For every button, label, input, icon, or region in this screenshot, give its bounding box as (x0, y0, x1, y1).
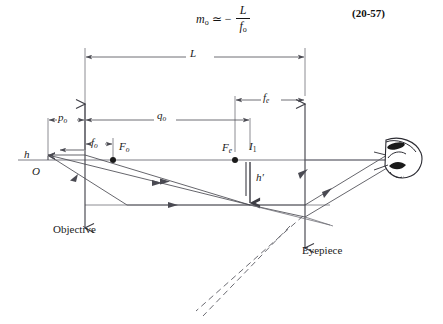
label-intermediate-image: I1 (249, 141, 256, 153)
focal-point-eyepiece-dot (232, 157, 238, 163)
label-object-height: h (24, 149, 30, 160)
label-object-origin: O (32, 166, 40, 177)
label-total-length-L: L (190, 48, 196, 59)
dashed-ray-upper (196, 216, 303, 311)
label-eyepiece-lens: Eyepiece (302, 245, 342, 256)
dimension-fe (235, 96, 304, 152)
ray-lower-path (48, 155, 250, 208)
dimension-L (85, 48, 305, 150)
eyepiece-corner-connector (250, 205, 330, 225)
label-eyepiece-focal-length: fe (263, 92, 269, 104)
ray-diagram-svg (0, 0, 443, 324)
ray-eyepiece-to-eye-lower (250, 165, 392, 217)
label-objective-focal-point: Fo (119, 141, 129, 153)
label-object-distance: po (58, 112, 67, 124)
eyepiece-corner-connector-2 (305, 217, 333, 226)
label-objective-lens: Objective (53, 224, 96, 235)
label-objective-focal-length: fo (91, 137, 98, 149)
figure-container: mo ≃ − L fo (20-57) (0, 0, 443, 324)
virtual-image-dashed-rays (196, 216, 303, 316)
label-eyepiece-focal-point: Fe (222, 142, 232, 154)
focal-point-objective-dot (110, 157, 116, 163)
ray-through-center-objective (48, 150, 250, 205)
label-image-distance: qo (157, 110, 166, 122)
label-image-height: h′ (256, 172, 264, 183)
